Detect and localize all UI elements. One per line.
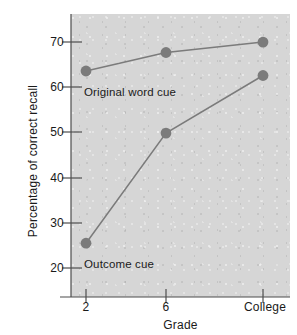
chart-figure: 70 60 50 40 30 20 2 6 College Percentage… — [0, 0, 297, 335]
data-point — [81, 66, 92, 77]
series-label-outcome-cue: Outcome cue — [84, 258, 154, 270]
chart-data-layer — [0, 0, 297, 335]
series-original-word-cue — [81, 37, 269, 77]
data-point — [81, 238, 92, 249]
y-tick-label: 70 — [24, 36, 64, 48]
series-line-original-word-cue — [86, 42, 263, 71]
x-axis-label: Grade — [71, 319, 290, 331]
x-tick-label: 6 — [163, 301, 170, 313]
x-tick-label: 2 — [83, 301, 90, 313]
data-point — [161, 47, 172, 58]
y-axis-label: Percentage of correct recall — [27, 51, 39, 271]
series-label-original-word-cue: Original word cue — [84, 86, 176, 98]
data-point — [258, 37, 269, 48]
x-tick-label: College — [244, 301, 286, 313]
series-line-outcome-cue — [86, 76, 263, 244]
data-point — [161, 128, 172, 139]
data-point — [258, 70, 269, 81]
